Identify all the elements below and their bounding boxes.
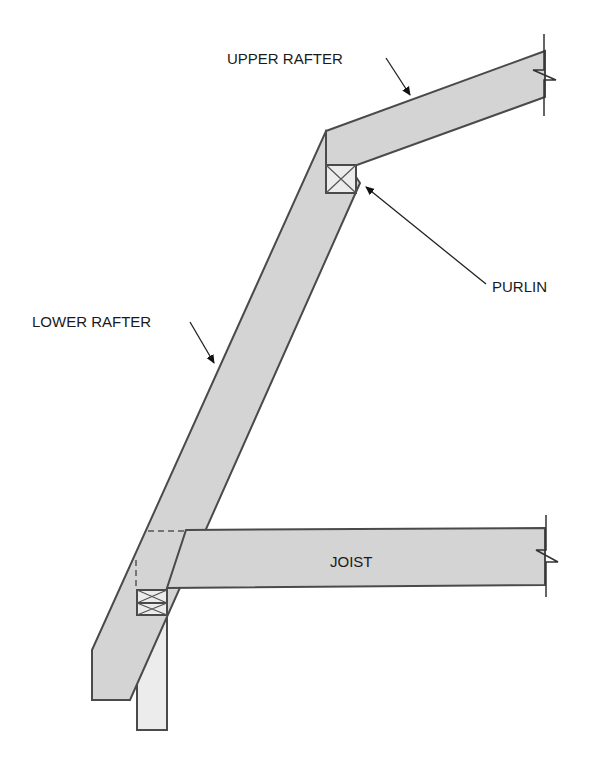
purlin-callout: PURLIN	[366, 187, 547, 295]
purlin	[326, 165, 356, 193]
upper-rafter-callout: UPPER RAFTER	[227, 50, 410, 95]
lower-rafter-callout: LOWER RAFTER	[32, 313, 214, 363]
lower-rafter	[92, 131, 360, 700]
roof-framing-diagram: UPPER RAFTER PURLIN LOWER RAFTER JOIST	[0, 0, 599, 761]
lower-rafter-label: LOWER RAFTER	[32, 313, 151, 330]
joist-callout: JOIST	[330, 553, 373, 570]
wall-top-plates	[137, 590, 167, 615]
purlin-label: PURLIN	[492, 278, 547, 295]
upper-rafter-label: UPPER RAFTER	[227, 50, 343, 67]
joist-label: JOIST	[330, 553, 373, 570]
upper-rafter	[326, 51, 545, 165]
